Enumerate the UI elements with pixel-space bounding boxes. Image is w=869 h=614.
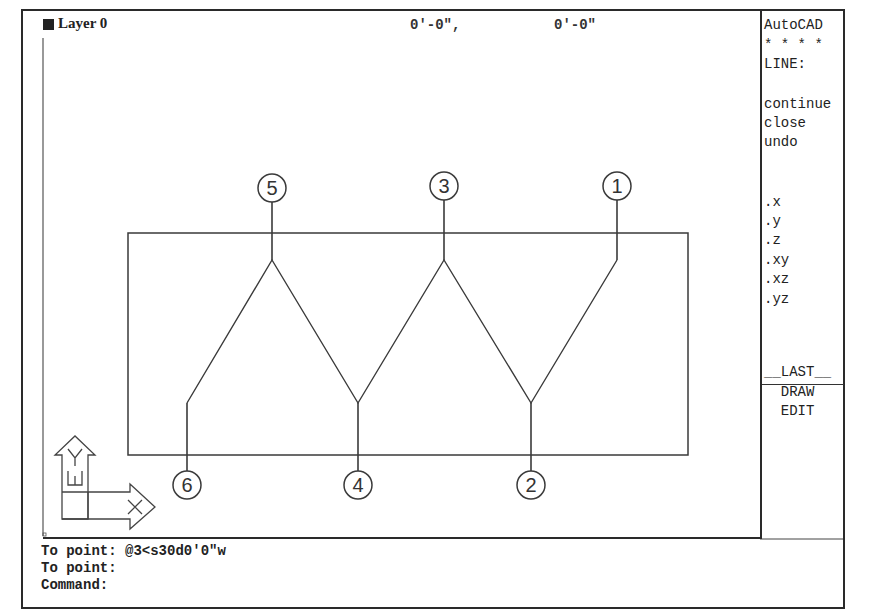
menu-item-autocad[interactable]: AutoCAD bbox=[764, 16, 823, 34]
menu-item-x[interactable]: .x bbox=[764, 193, 781, 211]
command-history-line: To point: @3<s30d0'0"w bbox=[41, 543, 226, 559]
menu-item-xz[interactable]: .xz bbox=[764, 270, 789, 288]
drawing-canvas[interactable]: 123456 bbox=[0, 0, 869, 614]
menu-item-[interactable]: * * * * bbox=[764, 36, 823, 54]
menu-item-draw[interactable]: DRAW bbox=[764, 383, 814, 401]
menu-item-last[interactable]: __LAST__ bbox=[764, 363, 831, 381]
menu-item-undo[interactable]: undo bbox=[764, 133, 798, 151]
point-number-label: 3 bbox=[438, 175, 449, 197]
zigzag-line-entity[interactable] bbox=[187, 260, 617, 403]
screen-menu: AutoCAD* * * *LINE:continuecloseundo.x.y… bbox=[760, 11, 845, 539]
menu-item-continue[interactable]: continue bbox=[764, 95, 831, 113]
menu-item-edit[interactable]: EDIT bbox=[764, 402, 814, 420]
point-number-label: 2 bbox=[525, 474, 536, 496]
menu-item-xy[interactable]: .xy bbox=[764, 251, 789, 269]
menu-separator bbox=[762, 384, 844, 385]
point-number-label: 1 bbox=[611, 175, 622, 197]
point-number-label: 5 bbox=[266, 177, 277, 199]
menu-item-yz[interactable]: .yz bbox=[764, 290, 789, 308]
point-number-label: 4 bbox=[352, 474, 363, 496]
command-prompt[interactable]: Command: bbox=[41, 577, 108, 593]
zigzag-polyline[interactable] bbox=[187, 260, 617, 403]
point-label-group: 123456 bbox=[173, 172, 631, 499]
menu-item-line[interactable]: LINE: bbox=[764, 55, 806, 73]
command-history-line: To point: bbox=[41, 560, 117, 576]
ucs-icon bbox=[55, 436, 155, 529]
menu-item-z[interactable]: .z bbox=[764, 231, 781, 249]
menu-item-close[interactable]: close bbox=[764, 114, 806, 132]
menu-item-y[interactable]: .y bbox=[764, 212, 781, 230]
point-number-label: 6 bbox=[181, 474, 192, 496]
rectangle-entity[interactable] bbox=[128, 233, 688, 455]
command-line-area[interactable]: To point: @3<s30d0'0"w To point: Command… bbox=[21, 539, 843, 605]
